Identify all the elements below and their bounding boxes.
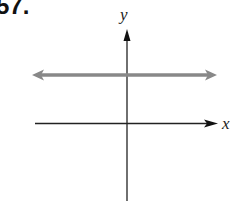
horizontal-line-graph (32, 70, 217, 81)
y-axis-arrow-icon (124, 29, 131, 41)
y-axis (124, 29, 131, 201)
x-axis-label: x (221, 114, 230, 133)
coordinate-plane: y x (0, 0, 234, 203)
y-axis-label: y (118, 5, 128, 24)
